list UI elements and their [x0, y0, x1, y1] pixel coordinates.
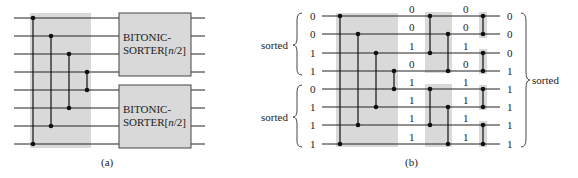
left-brace-bottom [293, 85, 302, 147]
svg-text:1: 1 [310, 138, 316, 150]
panel-a: BITONIC- SORTER[n/2] BITONIC- SORTER[n/2… [14, 13, 205, 169]
svg-text:0: 0 [507, 10, 513, 22]
sorted-label-top: sorted [261, 39, 288, 51]
svg-text:1: 1 [507, 65, 513, 77]
svg-text:1: 1 [409, 112, 415, 124]
svg-text:1: 1 [463, 76, 469, 88]
panel-b: 0 0 1 1 0 1 1 1 0 0 1 0 1 1 1 1 0 0 1 0 … [261, 3, 559, 169]
svg-text:1: 1 [409, 40, 415, 52]
svg-text:0: 0 [507, 47, 513, 59]
svg-text:0: 0 [409, 58, 415, 70]
svg-text:0: 0 [310, 83, 316, 95]
svg-text:1: 1 [310, 101, 316, 113]
svg-text:BITONIC-: BITONIC- [123, 103, 171, 115]
svg-text:1: 1 [409, 94, 415, 106]
svg-text:SORTER[n/2]: SORTER[n/2] [123, 116, 186, 128]
svg-text:0: 0 [409, 3, 415, 15]
bitonic-sorter-box-top: BITONIC- SORTER[n/2] [119, 13, 191, 76]
bitonic-sorter-box-bottom: BITONIC- SORTER[n/2] [119, 85, 191, 148]
stage3-comparators [481, 14, 486, 147]
bitonic-sorter-diagram: BITONIC- SORTER[n/2] BITONIC- SORTER[n/2… [0, 0, 578, 178]
panel-a-caption: (a) [101, 156, 114, 169]
input-values: 0 0 1 1 0 1 1 1 [310, 10, 316, 150]
svg-text:0: 0 [463, 58, 469, 70]
svg-text:1: 1 [463, 112, 469, 124]
svg-text:SORTER[n/2]: SORTER[n/2] [123, 44, 186, 56]
svg-text:0: 0 [310, 10, 316, 22]
svg-text:1: 1 [310, 47, 316, 59]
output-values: 0 0 0 1 1 1 1 1 [507, 10, 513, 150]
svg-text:1: 1 [463, 131, 469, 143]
svg-text:0: 0 [463, 21, 469, 33]
svg-text:0: 0 [310, 28, 316, 40]
panel-b-caption: (b) [405, 156, 418, 169]
svg-text:1: 1 [409, 131, 415, 143]
stage1-output-values: 0 0 1 0 1 1 1 1 [409, 3, 415, 143]
svg-text:0: 0 [409, 21, 415, 33]
svg-text:1: 1 [507, 83, 513, 95]
stage1-shade [336, 13, 398, 147]
svg-text:BITONIC-: BITONIC- [123, 31, 171, 43]
svg-text:1: 1 [310, 65, 316, 77]
right-brace [521, 13, 530, 147]
stage2-output-values: 0 0 1 0 1 1 1 1 [463, 3, 469, 143]
svg-text:1: 1 [409, 76, 415, 88]
sorted-label-bottom: sorted [261, 111, 288, 123]
left-brace-top [293, 13, 302, 75]
svg-text:0: 0 [463, 3, 469, 15]
svg-text:1: 1 [507, 101, 513, 113]
svg-text:1: 1 [507, 119, 513, 131]
svg-text:1: 1 [507, 138, 513, 150]
svg-text:1: 1 [463, 40, 469, 52]
svg-text:0: 0 [507, 28, 513, 40]
svg-text:1: 1 [310, 119, 316, 131]
svg-text:1: 1 [463, 94, 469, 106]
half-cleaner-shade [30, 13, 91, 148]
sorted-label-right: sorted [532, 74, 559, 86]
